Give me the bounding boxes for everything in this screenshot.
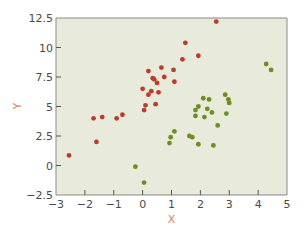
x-tick-label: −1: [106, 198, 122, 211]
x-tick-label: 3: [226, 198, 233, 211]
data-point-green: [196, 104, 201, 109]
data-point-red: [120, 112, 125, 117]
x-tick-label: 0: [139, 198, 146, 211]
y-tick-label: 10: [39, 42, 53, 55]
data-point-red: [172, 79, 177, 84]
data-point-green: [168, 135, 173, 140]
data-point-green: [196, 142, 201, 147]
data-point-green: [210, 110, 215, 115]
data-point-green: [167, 141, 172, 146]
y-tick-label: 12.5: [29, 12, 54, 25]
data-point-red: [67, 153, 72, 158]
data-point-red: [100, 115, 105, 120]
data-point-red: [183, 40, 188, 45]
scatter-chart: −3−2−1012345 −2.502.557.51012.5 X Y: [0, 0, 307, 237]
data-point-red: [146, 69, 151, 74]
x-tick-label: 1: [168, 198, 175, 211]
data-point-green: [193, 114, 198, 119]
data-point-green: [190, 135, 195, 140]
data-point-red: [159, 65, 164, 70]
data-point-green: [223, 92, 228, 97]
x-tick-label: 2: [197, 198, 204, 211]
data-point-green: [227, 101, 232, 106]
data-point-green: [142, 180, 147, 185]
x-axis-label: X: [168, 213, 176, 226]
data-point-green: [201, 96, 206, 101]
data-point-red: [156, 90, 161, 95]
data-point-green: [207, 97, 212, 102]
data-point-red: [149, 89, 154, 94]
data-point-red: [196, 53, 201, 58]
data-point-red: [114, 116, 119, 121]
data-point-green: [205, 106, 210, 111]
data-point-red: [142, 108, 147, 113]
data-point-red: [91, 116, 96, 121]
data-point-green: [133, 164, 138, 169]
data-point-red: [214, 19, 219, 24]
data-point-red: [150, 76, 155, 81]
data-point-green: [211, 143, 216, 148]
data-point-green: [215, 123, 220, 128]
y-axis-label: Y: [11, 102, 24, 110]
x-tick-label: −2: [77, 198, 93, 211]
data-point-red: [171, 68, 176, 73]
y-tick-label: −2.5: [26, 189, 53, 202]
data-point-red: [162, 75, 167, 80]
data-point-red: [94, 140, 99, 145]
y-tick-label: 7.5: [36, 71, 54, 84]
data-point-red: [143, 103, 148, 108]
x-tick-label: 5: [284, 198, 291, 211]
plot-area: [56, 18, 287, 195]
y-tick-label: 0: [46, 160, 53, 173]
data-point-green: [269, 68, 274, 73]
y-tick-label: 2.5: [36, 130, 54, 143]
data-point-green: [264, 62, 269, 67]
data-point-red: [180, 57, 185, 62]
data-point-red: [140, 86, 145, 91]
data-point-green: [224, 111, 229, 116]
x-tick-label: 4: [255, 198, 262, 211]
data-point-green: [172, 129, 177, 134]
data-point-green: [202, 115, 207, 120]
y-tick-label: 5: [46, 101, 53, 114]
data-point-red: [153, 102, 158, 107]
